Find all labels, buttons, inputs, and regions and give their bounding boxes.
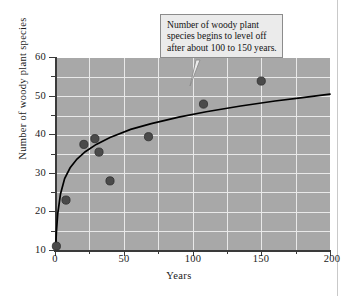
data-point [95, 148, 103, 156]
data-point [257, 77, 265, 85]
data-point [52, 242, 60, 250]
figure: 60 50 40 30 20 10 0 50 100 150 200 Years… [0, 0, 358, 296]
data-point [80, 140, 88, 148]
callout-line-1: Number of woody plant [167, 19, 277, 30]
level-off-callout: Number of woody plant species begins to … [160, 14, 283, 58]
fit-curve [56, 94, 330, 249]
data-point [199, 100, 207, 108]
data-point [62, 196, 70, 204]
data-point [106, 177, 114, 185]
callout-tail [190, 60, 200, 86]
callout-line-3: after about 100 to 150 years. [167, 42, 277, 53]
data-point [91, 135, 99, 143]
data-points [52, 77, 265, 250]
callout-line-2: species begins to level off [167, 30, 277, 41]
data-point [144, 133, 152, 141]
